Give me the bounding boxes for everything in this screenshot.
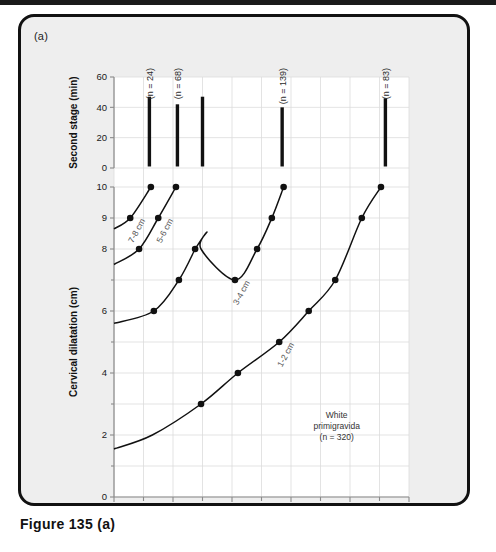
lower-y-tick-label: 2 [102,429,107,440]
data-point-marker [280,184,287,191]
data-point-marker [276,339,283,346]
data-point-marker [305,308,312,315]
data-point-marker [232,277,239,284]
x-tick-label: 6 [288,504,293,506]
data-point-marker [176,277,183,284]
data-point-marker [148,184,155,191]
x-tick-label: 0 [111,504,116,506]
lower-y-tick-label: 10 [96,181,107,192]
data-point-marker [173,184,180,191]
x-tick-label: 8 [347,504,352,506]
data-point-marker [378,184,385,191]
data-point-marker [254,246,261,253]
data-point-marker [155,215,162,222]
data-point-marker [151,308,158,315]
upper-y-tick-label: 60 [96,71,107,82]
chart-annotation-line: (n = 320) [320,432,354,442]
labor-progress-chart: 0204060Second stage (min)(n = 24)(n = 68… [18,14,470,506]
lower-y-tick-label: 6 [102,305,107,316]
data-point-marker [127,215,134,222]
x-tick-label: 2 [170,504,175,506]
top-rule-divider [0,0,496,5]
lower-y-tick-label: 8 [102,243,107,254]
lower-y-tick-label: 4 [102,367,107,378]
data-point-marker [269,215,276,222]
chart-annotation-line: primigravida [314,421,361,431]
bar-n-label: (n = 68) [173,68,183,99]
figure-caption: Figure 135 (a) [20,516,115,532]
data-point-marker [235,370,242,377]
data-point-marker [136,246,143,253]
data-point-marker [359,215,366,222]
chart-annotation-line: White [326,410,348,420]
upper-y-tick-label: 40 [96,102,107,113]
lower-y-axis-title: Cervical dilatation (cm) [68,287,79,397]
bar-n-label: (n = 83) [381,68,391,99]
upper-y-tick-label: 20 [96,132,107,143]
lower-y-tick-label: 0 [102,491,107,502]
bar-n-label: (n = 24) [145,68,155,99]
lower-y-tick-label: 9 [102,212,107,223]
data-point-marker [198,401,205,408]
bar-n-label: (n = 139) [278,68,288,104]
upper-y-tick-label: 0 [102,162,107,173]
x-tick-label: 10 [404,504,415,506]
data-point-marker [332,277,339,284]
upper-y-axis-title: Second stage (min) [68,76,79,168]
x-tick-label: 4 [229,504,234,506]
